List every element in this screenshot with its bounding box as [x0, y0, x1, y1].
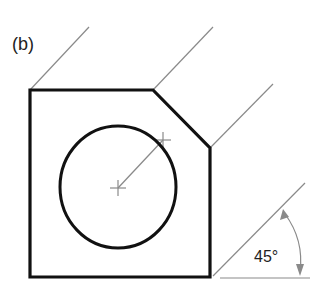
projection-line-2 — [153, 27, 213, 90]
radius-line — [118, 140, 163, 188]
figure-label: (b) — [12, 34, 34, 54]
projection-lines — [30, 27, 310, 278]
projection-line-3 — [210, 84, 273, 148]
angle-label: 45° — [254, 248, 278, 265]
arrow-down-icon — [296, 264, 304, 276]
projection-line-1 — [30, 27, 89, 90]
technical-drawing: (b) 45° — [0, 0, 323, 293]
angle-arrows — [280, 209, 304, 276]
angle-arc — [285, 214, 301, 272]
